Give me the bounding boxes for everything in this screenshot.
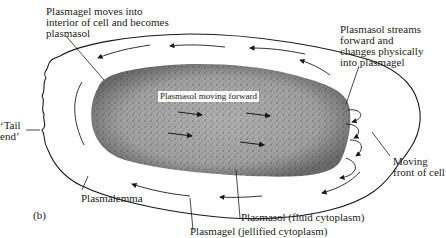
label-plasmagel-jellified: Plasmagel (jellified cytoplasm): [190, 226, 327, 237]
label-moving-front: Moving front of cell: [393, 156, 445, 178]
label-tail-end: ‘Tail end’: [0, 120, 21, 142]
label-plasmasol-moving-forward: Plasmasol moving forward: [158, 91, 259, 102]
label-plasmasol-fluid: Plasmasol (fluid cytoplasm): [241, 212, 364, 223]
label-plasmasol-streams: Plasmasol streams forward and changes ph…: [340, 24, 423, 68]
label-plasmalemma: Plasmalemma: [81, 193, 143, 204]
panel-label: (b): [33, 210, 46, 221]
label-plasmagel-moves: Plasmagel moves into interior of cell an…: [46, 6, 169, 39]
stipple-texture: [91, 64, 350, 177]
